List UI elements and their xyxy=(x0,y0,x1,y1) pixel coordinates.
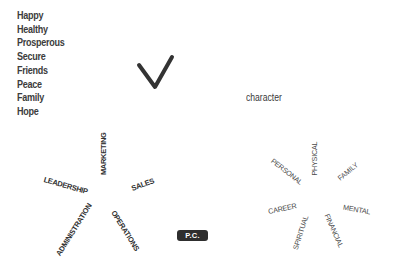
value-item-prosperous: Prosperous xyxy=(17,36,65,50)
word-marketing: MARKETING xyxy=(100,132,108,175)
values-list: Happy Healthy Prosperous Secure Friends … xyxy=(17,9,72,119)
value-item-secure: Secure xyxy=(17,50,65,64)
word-physical: PHYSICAL xyxy=(311,142,318,176)
pc-badge: P.C. xyxy=(177,230,208,241)
word-administration: ADMINISTRATION xyxy=(55,202,93,257)
word-sales: SALES xyxy=(130,177,155,192)
word-family: FAMILY xyxy=(336,161,359,182)
word-operations: OPERATIONS xyxy=(110,209,141,252)
checkmark-icon xyxy=(136,53,176,91)
word-personal: PERSONAL xyxy=(270,157,304,186)
word-spiritual: SPIRITUAL xyxy=(292,215,310,251)
word-leadership: LEADERSHIP xyxy=(43,176,89,196)
word-career: CAREER xyxy=(268,202,298,215)
value-item-friends: Friends xyxy=(17,64,65,78)
character-label: character xyxy=(246,92,282,103)
value-item-happy: Happy xyxy=(17,9,65,23)
value-item-peace: Peace xyxy=(17,78,65,92)
value-item-family: Family xyxy=(17,91,65,105)
value-item-healthy: Healthy xyxy=(17,23,65,37)
value-item-hope: Hope xyxy=(17,105,65,119)
word-mental: MENTAL xyxy=(343,204,371,216)
word-financial: FINANCIAL xyxy=(323,213,344,249)
